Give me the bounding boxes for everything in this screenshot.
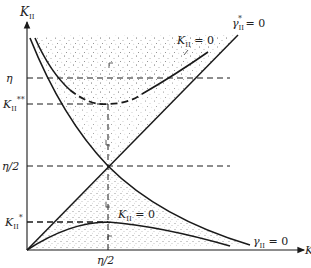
y-tick-eta-half: η/2 [2, 160, 19, 173]
y-tick-eta: η [6, 72, 13, 85]
x-tick-eta-half: η/2 [97, 254, 114, 267]
gamma-zero-label: γII = 0 [253, 235, 288, 250]
phase-diagram: KII η KII** η/2 KII* η/2 K KII = 0 γII* … [0, 0, 311, 268]
lower-k-zero-label: KII = 0 [117, 208, 155, 223]
gamma-star-zero-label: γII* = 0 [232, 14, 265, 32]
y-tick-ks: KII* [4, 213, 23, 231]
y-tick-kss: KII** [2, 95, 25, 113]
y-axis-label: KII [19, 5, 35, 21]
upper-k-zero-label: KII = 0 [176, 34, 214, 49]
x-axis-label: K [304, 244, 311, 257]
